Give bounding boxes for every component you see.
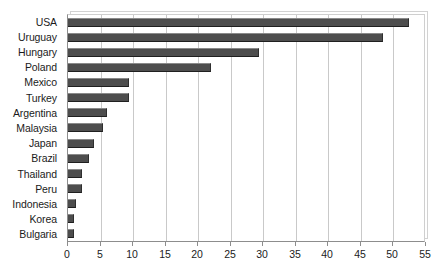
tick-mark <box>165 242 166 246</box>
tick-mark <box>262 242 263 246</box>
bar <box>68 33 383 42</box>
bar-chart: USAUruguayHungaryPolandMexicoTurkeyArgen… <box>0 0 442 279</box>
category-label: Indonesia <box>0 196 62 211</box>
tick-mark <box>230 242 231 246</box>
bar <box>68 18 409 27</box>
category-label: Bulgaria <box>0 227 62 242</box>
bar <box>68 214 74 223</box>
tick-label: 10 <box>126 248 138 260</box>
tick-label: 35 <box>289 248 301 260</box>
category-label: Hungary <box>0 44 62 59</box>
bar <box>68 48 259 57</box>
category-label: Turkey <box>0 90 62 105</box>
bar <box>68 63 211 72</box>
bar <box>68 78 129 87</box>
bar-row <box>68 151 424 166</box>
tick-label: 50 <box>386 248 398 260</box>
bar-row <box>68 181 424 196</box>
value-axis: 0510152025303540455055 <box>67 242 426 268</box>
tick-label: 40 <box>321 248 333 260</box>
category-label: Thailand <box>0 166 62 181</box>
tick-mark <box>360 242 361 246</box>
bar <box>68 229 74 238</box>
bar-row <box>68 15 424 30</box>
tick-mark <box>132 242 133 246</box>
tick-mark <box>392 242 393 246</box>
tick-mark <box>327 242 328 246</box>
bar-row <box>68 105 424 120</box>
tick-label: 20 <box>191 248 203 260</box>
bar <box>68 123 103 132</box>
tick-label: 5 <box>97 248 103 260</box>
tick-label: 25 <box>224 248 236 260</box>
bar-row <box>68 136 424 151</box>
plot-area <box>67 14 425 242</box>
bar-row <box>68 60 424 75</box>
category-axis: USAUruguayHungaryPolandMexicoTurkeyArgen… <box>0 14 62 242</box>
category-label: Korea <box>0 212 62 227</box>
bar-row <box>68 45 424 60</box>
category-label: USA <box>0 14 62 29</box>
bar-row <box>68 120 424 135</box>
tick-label: 0 <box>64 248 70 260</box>
bars-layer <box>68 15 424 241</box>
tick-mark <box>425 242 426 246</box>
bar <box>68 108 107 117</box>
bar-row <box>68 226 424 241</box>
bar <box>68 154 89 163</box>
category-label: Mexico <box>0 75 62 90</box>
tick-mark <box>67 242 68 246</box>
tick-mark <box>197 242 198 246</box>
category-label: Poland <box>0 60 62 75</box>
tick-label: 30 <box>256 248 268 260</box>
tick-label: 15 <box>159 248 171 260</box>
bar-row <box>68 196 424 211</box>
bar-row <box>68 75 424 90</box>
tick-label: 55 <box>419 248 431 260</box>
category-label: Argentina <box>0 105 62 120</box>
bar-row <box>68 30 424 45</box>
tick-mark <box>295 242 296 246</box>
category-label: Uruguay <box>0 29 62 44</box>
category-label: Malaysia <box>0 120 62 135</box>
category-label: Japan <box>0 136 62 151</box>
bar-row <box>68 166 424 181</box>
bar <box>68 169 82 178</box>
bar-row <box>68 90 424 105</box>
tick-mark <box>100 242 101 246</box>
tick-label: 45 <box>354 248 366 260</box>
bar <box>68 184 82 193</box>
bar <box>68 139 94 148</box>
bar <box>68 199 76 208</box>
category-label: Brazil <box>0 151 62 166</box>
bar-row <box>68 211 424 226</box>
category-label: Peru <box>0 181 62 196</box>
bar <box>68 93 129 102</box>
